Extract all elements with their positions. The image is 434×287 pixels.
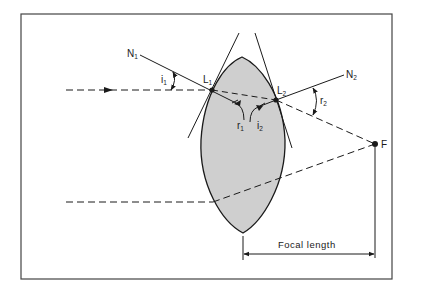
ray-direction-arrow-icon bbox=[104, 87, 113, 93]
lens-refraction-diagram: N1 N2 L1 L2 i1 r1 i2 r2 F Focal length bbox=[0, 0, 434, 287]
label-f: F bbox=[381, 139, 387, 150]
label-i1: i1 bbox=[161, 74, 167, 86]
convex-lens bbox=[201, 57, 285, 233]
point-l1 bbox=[209, 87, 214, 92]
focal-point-f bbox=[372, 141, 378, 147]
angle-i1-arc bbox=[171, 72, 175, 90]
focal-length-label: Focal length bbox=[278, 239, 336, 250]
label-l1: L1 bbox=[203, 74, 213, 86]
point-l2 bbox=[273, 97, 278, 102]
label-l2: L2 bbox=[277, 85, 287, 97]
label-r2: r2 bbox=[320, 95, 327, 107]
label-n1: N1 bbox=[127, 48, 138, 60]
label-n2: N2 bbox=[346, 69, 357, 81]
normal-n2-outer bbox=[276, 75, 344, 100]
angle-r2-arc bbox=[313, 88, 317, 115]
